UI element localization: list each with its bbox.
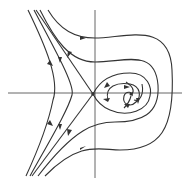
spiral — [107, 84, 139, 105]
phase-portrait — [0, 0, 184, 183]
axes — [8, 10, 182, 178]
stable-separatrix-upper — [36, 10, 93, 94]
arrow-icon — [104, 82, 110, 88]
arrow-icon — [124, 85, 130, 89]
arrow-icon — [103, 98, 110, 102]
arrow-icon — [58, 124, 62, 130]
arrow-icon — [47, 60, 53, 66]
arrow-icon — [67, 129, 72, 136]
saddle-point — [91, 92, 95, 96]
unstable-separatrix-lower — [32, 94, 93, 176]
spiral-point — [130, 93, 133, 96]
arrow-icon — [80, 146, 86, 150]
